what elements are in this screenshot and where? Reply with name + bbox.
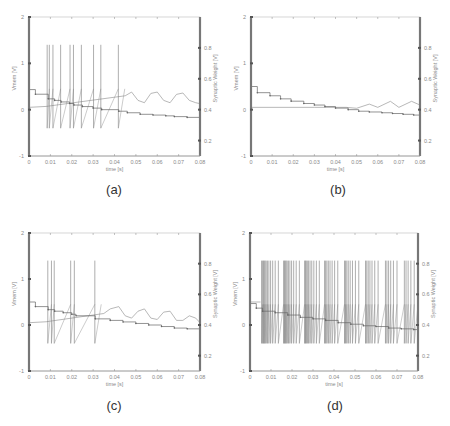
weight-marker bbox=[381, 112, 383, 114]
x-tick-label: 0.07 bbox=[394, 159, 405, 165]
right-y-tick-label: 0.4 bbox=[422, 322, 430, 328]
right-y-tick-label: 0.2 bbox=[204, 353, 212, 359]
plot-area bbox=[29, 233, 200, 371]
right-y-tick-label: 0.8 bbox=[204, 45, 212, 51]
x-tick-label: 0.04 bbox=[109, 159, 120, 165]
right-y-axis-label: Synaptic Weight [V] bbox=[430, 270, 436, 318]
y-tick-label: 2 bbox=[21, 230, 24, 236]
right-y-tick-label: 0.6 bbox=[422, 291, 430, 297]
weight-marker bbox=[350, 323, 352, 325]
weight-marker bbox=[94, 318, 96, 320]
right-y-tick-label: 0.2 bbox=[424, 138, 432, 144]
x-tick-label: 0.08 bbox=[195, 374, 206, 380]
y-tick-label: 1 bbox=[242, 276, 245, 282]
right-y-tick-label: 0.6 bbox=[424, 76, 432, 82]
x-tick-label: 0 bbox=[27, 159, 30, 165]
x-tick-label: 0.03 bbox=[88, 374, 99, 380]
y-tick-label: -1 bbox=[19, 153, 24, 159]
weight-marker bbox=[135, 323, 137, 325]
y-tick-label: 1 bbox=[21, 276, 24, 282]
weight-marker bbox=[363, 325, 365, 327]
weight-marker bbox=[358, 110, 360, 112]
weight-marker bbox=[54, 310, 56, 312]
x-tick-label: 0.01 bbox=[266, 374, 277, 380]
weight-marker bbox=[314, 104, 316, 106]
caption-d: (d) bbox=[315, 398, 355, 413]
weight-marker bbox=[287, 314, 289, 316]
right-y-tick-label: 0.4 bbox=[424, 107, 432, 113]
weight-marker bbox=[290, 100, 292, 102]
x-tick-label: 0.06 bbox=[371, 374, 382, 380]
weight-marker bbox=[388, 327, 390, 329]
x-tick-label: 0.06 bbox=[152, 374, 163, 380]
weight-marker bbox=[369, 111, 371, 113]
x-tick-label: 0.06 bbox=[152, 159, 163, 165]
x-tick-label: 0.03 bbox=[308, 374, 319, 380]
right-y-tick-label: 0.4 bbox=[204, 107, 212, 113]
weight-marker bbox=[262, 310, 264, 312]
weight-marker bbox=[186, 328, 188, 330]
x-axis-label: time [s] bbox=[325, 381, 343, 387]
weight-marker bbox=[300, 317, 302, 319]
chart-c: 00.010.020.030.040.050.060.070.08time [s… bbox=[0, 213, 225, 426]
x-tick-label: 0.01 bbox=[45, 374, 56, 380]
y-tick-label: 1 bbox=[243, 60, 246, 66]
weight-marker bbox=[71, 313, 73, 315]
weight-marker bbox=[174, 116, 176, 118]
x-tick-label: 0.05 bbox=[350, 374, 361, 380]
caption-b: (b) bbox=[318, 182, 358, 197]
y-tick-label: 2 bbox=[242, 230, 245, 236]
weight-marker bbox=[92, 107, 94, 109]
weight-marker bbox=[75, 315, 77, 317]
x-axis-label: time [s] bbox=[106, 381, 124, 387]
y-tick-label: 0 bbox=[243, 107, 246, 113]
weight-marker bbox=[62, 312, 64, 314]
right-y-axis-label: Synaptic Weight [V] bbox=[432, 54, 438, 102]
weight-marker bbox=[139, 114, 141, 116]
weight-marker bbox=[186, 117, 188, 119]
weight-marker bbox=[127, 112, 129, 114]
plot-area bbox=[29, 17, 200, 156]
right-y-axis-label: Synaptic Weight [V] bbox=[212, 270, 218, 318]
right-y-axis-label: Synaptic Weight [V] bbox=[212, 54, 218, 102]
caption-c: (c) bbox=[94, 398, 134, 413]
y-tick-label: -1 bbox=[241, 153, 246, 159]
weight-marker bbox=[335, 107, 337, 109]
x-tick-label: 0.08 bbox=[415, 159, 426, 165]
weight-marker bbox=[82, 106, 84, 108]
weight-marker bbox=[375, 326, 377, 328]
right-y-tick-label: 0.6 bbox=[204, 76, 212, 82]
right-y-tick-label: 0.6 bbox=[204, 291, 212, 297]
y-tick-label: 1 bbox=[21, 60, 24, 66]
weight-marker bbox=[161, 326, 163, 328]
weight-marker bbox=[413, 114, 415, 116]
x-tick-label: 0.01 bbox=[267, 159, 278, 165]
x-tick-label: 0.05 bbox=[351, 159, 362, 165]
x-tick-label: 0.07 bbox=[392, 374, 403, 380]
x-tick-label: 0 bbox=[248, 374, 251, 380]
x-tick-label: 0.02 bbox=[287, 374, 298, 380]
weight-marker bbox=[148, 324, 150, 326]
y-tick-label: 0 bbox=[21, 322, 24, 328]
right-y-tick-label: 0.8 bbox=[204, 261, 212, 267]
weight-marker bbox=[280, 98, 282, 100]
x-tick-label: 0.02 bbox=[66, 159, 77, 165]
weight-marker bbox=[174, 327, 176, 329]
x-tick-label: 0.08 bbox=[413, 374, 424, 380]
weight-marker bbox=[303, 103, 305, 105]
x-tick-label: 0.07 bbox=[173, 374, 184, 380]
weight-marker bbox=[73, 104, 75, 106]
weight-marker bbox=[35, 93, 37, 95]
x-tick-label: 0 bbox=[249, 159, 252, 165]
weight-marker bbox=[47, 98, 49, 100]
weight-marker bbox=[347, 109, 349, 111]
x-tick-label: 0.04 bbox=[330, 159, 341, 165]
weight-marker bbox=[256, 307, 258, 309]
x-tick-label: 0.01 bbox=[45, 159, 56, 165]
y-tick-label: 2 bbox=[243, 14, 246, 20]
right-y-tick-label: 0.2 bbox=[422, 353, 430, 359]
weight-marker bbox=[337, 322, 339, 324]
weight-marker bbox=[152, 114, 154, 116]
weight-marker bbox=[413, 329, 415, 331]
weight-marker bbox=[165, 115, 167, 117]
